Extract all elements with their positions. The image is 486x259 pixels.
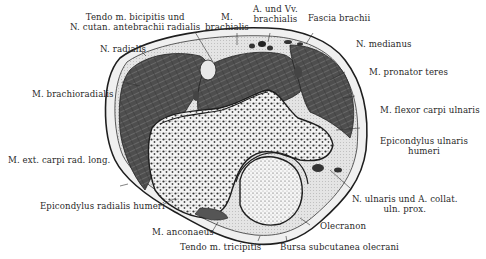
label-brachioradialis: M. brachioradialis (32, 90, 114, 100)
cutaneous-vein-2 (297, 42, 303, 46)
biceps-tendon (200, 60, 216, 80)
label-brachialis: M. brachialis (205, 13, 249, 32)
radial-nerve (193, 91, 199, 101)
label-tendo-tricipitis: Tendo m. tricipitis (180, 243, 261, 253)
brachial-vein (267, 46, 273, 51)
collateral-artery (334, 168, 342, 173)
label-epicondylus-radialis: Epicondylus radialis humeri (40, 202, 165, 212)
label-brachial-vessels: A. und Vv. brachialis (253, 5, 298, 24)
label-anconaeus: M. anconaeus (152, 228, 214, 238)
brachial-vein-2 (249, 44, 255, 49)
brachial-artery (258, 41, 266, 47)
median-nerve (294, 66, 302, 78)
label-n-radialis: N. radialis (100, 45, 146, 55)
olecranon (240, 157, 302, 225)
elbow-cross-section-illustration (0, 0, 486, 259)
cutaneous-vein (284, 40, 292, 44)
label-n-medianus: N. medianus (356, 40, 412, 50)
label-fascia-brachii: Fascia brachii (308, 14, 370, 24)
label-bursa-olecrani: Bursa subcutanea olecrani (280, 243, 399, 253)
ulnar-nerve (312, 164, 324, 172)
label-tendo-biceps: Tendo m. bicipitis und N. cutan. antebra… (70, 13, 200, 32)
label-ext-carpi-rad-long: M. ext. carpi rad. long. (8, 156, 110, 166)
label-epicondylus-ulnaris: Epicondylus ulnaris humeri (380, 137, 468, 156)
label-pronator-teres: M. pronator teres (369, 68, 448, 78)
label-flexor-carpi-ulnaris: M. flexor carpi ulnaris (380, 106, 480, 116)
label-olecranon: Olecranon (320, 222, 366, 232)
label-n-ulnaris: N. ulnaris und A. collat. uln. prox. (352, 195, 458, 214)
